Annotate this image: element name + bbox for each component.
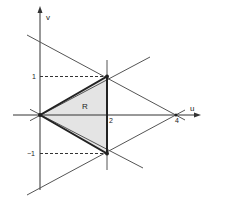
- vertex-origin: [38, 113, 42, 117]
- tick-v-1: 1: [32, 73, 36, 80]
- vertex-2-1: [105, 75, 109, 79]
- u-axis-arrow-icon: [194, 113, 201, 118]
- region-label: R: [82, 102, 88, 111]
- u-axis-label: u: [190, 104, 194, 113]
- tick-v-neg1: −1: [27, 150, 35, 157]
- vertex-2-neg1: [105, 152, 109, 156]
- tick-u-4: 4: [175, 117, 179, 124]
- v-axis-arrow-icon: [38, 6, 43, 13]
- v-axis-label: v: [46, 13, 50, 22]
- diagram: v u 1 −1 2 4 R: [0, 0, 241, 203]
- tick-u-2: 2: [109, 117, 113, 124]
